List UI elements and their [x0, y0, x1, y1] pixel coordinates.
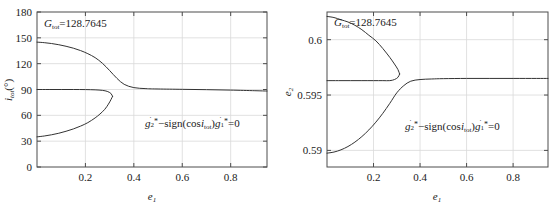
annotation-gtot-sub-left: tot [52, 23, 59, 31]
chart-panel-right: 0.20.40.60.80.590.5950.6 e2 e1 Gtot=128.… [275, 0, 550, 211]
curve-middle-branch [37, 89, 113, 96]
annotation-gtot-base-right: G [334, 16, 342, 28]
annotation-gtot-value-right: =128.7645 [349, 16, 397, 28]
axis-ticks-right [327, 12, 548, 167]
annotation-gtot-left: Gtot=128.7645 [44, 17, 107, 31]
gridlines-right [327, 12, 548, 167]
plot-frame-right [327, 12, 548, 167]
curve-middle-branch [327, 74, 400, 81]
curve-upper-branch [37, 42, 267, 91]
curve-lower-branch [37, 96, 113, 136]
annotation-gtot-sub-right: tot [342, 22, 349, 30]
y-tick-label: 90 [21, 84, 33, 96]
y-axis-title-right: e2 [281, 87, 295, 96]
y-tick-label: 0 [27, 161, 33, 173]
x-tick-label: 0.2 [79, 171, 93, 183]
annotation-gtot-value-left: =128.7645 [59, 17, 107, 29]
y-axis-title-sub-right: 2 [287, 87, 295, 91]
x-tick-label: 0.6 [175, 171, 189, 183]
x-axis-title-left: e1 [148, 190, 156, 204]
annotation-equation-right: ġ2*−sign(cositot)ġ1*=0 [405, 120, 500, 134]
y-axis-title-units-left: (°) [2, 79, 15, 91]
y-tick-label: 60 [21, 109, 33, 121]
figure-container: 0.20.40.60.80306090120150180 itot(°) e1 … [0, 0, 550, 211]
x-tick-label: 0.4 [127, 171, 141, 183]
y-tick-label: 0.59 [303, 144, 323, 156]
tick-labels-right: 0.20.40.60.80.590.5950.6 [297, 34, 520, 183]
y-tick-label: 180 [16, 6, 33, 18]
y-tick-label: 0.6 [308, 34, 322, 46]
x-tick-label: 0.8 [506, 171, 520, 183]
tick-labels-left: 0.20.40.60.80306090120150180 [16, 6, 239, 183]
y-tick-label: 120 [16, 58, 33, 70]
data-curves-right [327, 16, 548, 153]
curve-lower-branch [327, 78, 548, 153]
x-tick-label: 0.4 [413, 171, 427, 183]
svg-text:itot(°): itot(°) [2, 79, 16, 102]
y-axis-title-left: itot(°) [2, 79, 16, 102]
plot-left: 0.20.40.60.80306090120150180 itot(°) e1 … [0, 0, 275, 211]
plot-right: 0.20.40.60.80.590.5950.6 e2 e1 Gtot=128.… [275, 0, 550, 211]
chart-panel-left: 0.20.40.60.80306090120150180 itot(°) e1 … [0, 0, 275, 211]
svg-text:e2: e2 [281, 87, 295, 96]
x-tick-label: 0.2 [367, 171, 381, 183]
annotation-equation-left: ġ2*−sign(cositot)ġ1*=0 [145, 117, 240, 131]
x-axis-title-sub-right: 1 [438, 196, 442, 204]
annotation-gtot-right: Gtot=128.7645 [334, 16, 397, 30]
x-axis-title-right: e1 [433, 190, 441, 204]
y-tick-label: 150 [16, 32, 33, 44]
y-tick-label: 30 [21, 135, 33, 147]
x-axis-title-sub-left: 1 [153, 196, 157, 204]
x-tick-label: 0.8 [224, 171, 238, 183]
y-tick-label: 0.595 [297, 89, 322, 101]
annotation-gtot-base-left: G [44, 17, 52, 29]
x-tick-label: 0.6 [460, 171, 474, 183]
